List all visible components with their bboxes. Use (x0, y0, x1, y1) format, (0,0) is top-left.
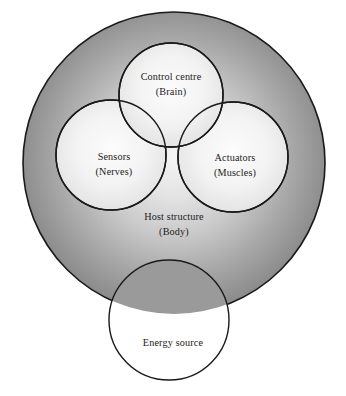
energy-source-label: Energy source (143, 337, 204, 348)
diagram-root: Control centre (Brain) Sensors (Nerves) … (0, 0, 346, 396)
sensors-label-line1: Sensors (98, 151, 131, 162)
host-structure-label-line2: (Body) (159, 226, 189, 238)
actuators-label-line2: (Muscles) (214, 167, 256, 179)
actuators-label-line1: Actuators (215, 152, 256, 163)
sensors-label-line2: (Nerves) (96, 166, 133, 178)
control-centre-label-line1: Control centre (141, 71, 202, 82)
system-venn-diagram: Control centre (Brain) Sensors (Nerves) … (0, 0, 346, 396)
host-structure-label-line1: Host structure (144, 211, 204, 222)
control-centre-label-line2: (Brain) (156, 86, 186, 98)
